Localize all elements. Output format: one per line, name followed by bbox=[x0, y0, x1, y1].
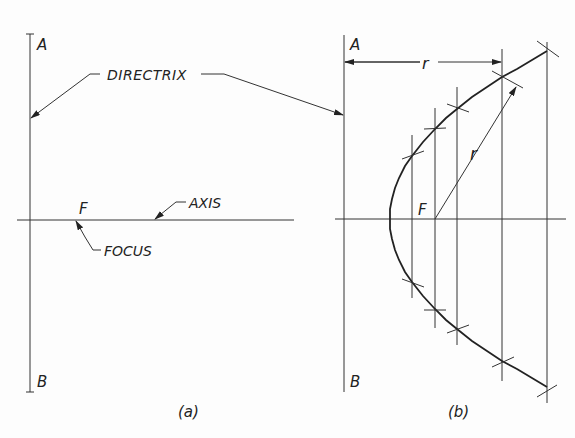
axis-leader bbox=[155, 202, 186, 219]
label-a-top-b: A bbox=[349, 36, 360, 54]
axis-label: AXIS bbox=[188, 195, 221, 211]
label-b-bottom: B bbox=[37, 373, 47, 391]
directrix-leader-left bbox=[31, 74, 100, 118]
radius-label-r: r bbox=[470, 144, 478, 164]
directrix-label: DIRECTRIX bbox=[107, 67, 187, 83]
caption-a: (a) bbox=[178, 403, 199, 421]
directrix-leader-right bbox=[201, 74, 343, 115]
label-b-bottom-b: B bbox=[350, 373, 360, 391]
label-a-top: A bbox=[36, 36, 47, 54]
dimension-label-r: r bbox=[422, 54, 430, 73]
focus-letter-a: F bbox=[79, 200, 88, 218]
panel-b: A B r r F bbox=[335, 35, 566, 421]
caption-b: (b) bbox=[448, 403, 469, 421]
focus-label: FOCUS bbox=[104, 243, 152, 259]
focus-leader bbox=[76, 221, 101, 250]
focus-letter-b: F bbox=[418, 201, 427, 219]
parabola-construction-figure: A B DIRECTRIX F FOCUS AXIS (a) A B bbox=[0, 0, 575, 438]
panel-a: A B DIRECTRIX F FOCUS AXIS (a) bbox=[17, 34, 343, 421]
